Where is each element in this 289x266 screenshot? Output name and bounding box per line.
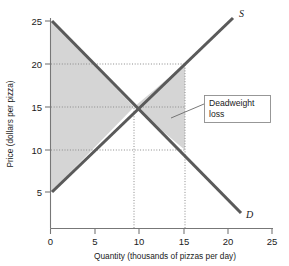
x-axis-title: Quantity (thousands of pizzas per day)	[94, 251, 236, 261]
x-tick-label-15: 15	[179, 236, 190, 247]
x-tick-label-5: 5	[92, 236, 97, 247]
callout-text-line2: loss	[209, 109, 224, 119]
y-tick-labels: 25 20 15 10 5	[31, 16, 42, 198]
y-tick-label-10: 10	[31, 145, 42, 156]
y-tick-label-25: 25	[31, 16, 42, 27]
deadweight-loss-callout: Deadweight loss	[171, 96, 271, 123]
demand-curve-label: D	[245, 209, 254, 220]
x-tick-label-20: 20	[223, 236, 234, 247]
x-tick-label-25: 25	[267, 236, 278, 247]
y-tick-label-20: 20	[31, 59, 42, 70]
x-tick-labels: 0 5 10 15 20 25	[48, 236, 277, 247]
y-tick-label-15: 15	[31, 102, 42, 113]
y-tick-label-5: 5	[37, 187, 42, 198]
y-axis-title: Price (dollars per pizza)	[5, 80, 15, 167]
x-tick-label-10: 10	[134, 236, 145, 247]
y-axis-ticks	[45, 21, 51, 192]
supply-demand-chart: 25 20 15 10 5 0 5 10 15 20 25 Price (dol…	[0, 0, 289, 266]
x-axis-ticks	[51, 229, 273, 235]
supply-curve-label: S	[239, 8, 244, 19]
callout-text-line1: Deadweight	[209, 98, 255, 108]
x-tick-label-0: 0	[48, 236, 53, 247]
